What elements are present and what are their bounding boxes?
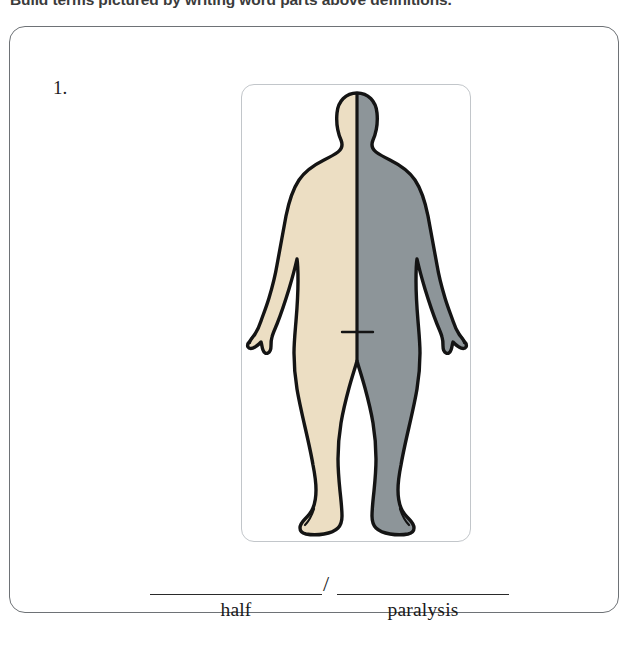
answer-blank-1-definition: half [150, 595, 322, 621]
answer-blank-2-definition: paralysis [337, 595, 509, 621]
answer-blank-2-line[interactable] [337, 575, 509, 595]
exercise-instruction: Build terms pictured by writing word par… [10, 0, 590, 13]
word-part-separator: / [323, 571, 329, 597]
answer-blank-1-line[interactable] [150, 575, 322, 595]
human-body-posterior-icon [242, 85, 471, 542]
answer-blank-1[interactable]: half [150, 575, 322, 621]
answer-blank-2[interactable]: paralysis [337, 575, 509, 621]
item-number: 1. [53, 77, 67, 99]
answer-row: half / paralysis [10, 575, 606, 635]
exercise-box: 1. [9, 26, 619, 613]
figure-card [241, 84, 471, 542]
